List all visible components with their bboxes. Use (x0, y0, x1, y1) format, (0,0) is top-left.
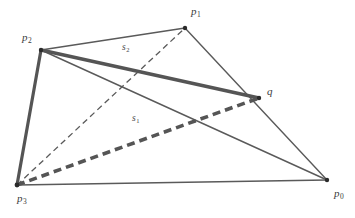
vertex-dot-p0 (325, 178, 329, 182)
geometric-diagram: p1 p2 p3 p0 q s2 s1 (0, 0, 355, 218)
vertex-label-p0: p0 (334, 188, 343, 199)
vertex-label-p2-text: p (22, 31, 28, 43)
segment-label-s1: s1 (132, 114, 139, 124)
vertex-label-p3-subscript: 3 (23, 197, 27, 206)
vertex-dot-p1 (183, 26, 187, 30)
vertex-dot-p3 (15, 183, 20, 188)
edge-p3-p0 (17, 180, 327, 185)
vertex-label-p0-text: p (334, 187, 340, 199)
vertex-dot-p2 (39, 48, 43, 52)
edge-p0-p1 (185, 28, 327, 180)
segment-label-s1-subscript: 1 (136, 117, 139, 124)
vertex-label-p2: p2 (22, 32, 31, 43)
vertex-label-p3-text: p (17, 192, 23, 204)
vertex-label-p1: p1 (191, 6, 200, 17)
vertex-label-p1-subscript: 1 (197, 10, 201, 19)
vertex-label-p3: p3 (17, 193, 26, 204)
segment-s2 (41, 50, 259, 98)
segment-label-s2-subscript: 2 (126, 46, 129, 53)
segment-label-s2: s2 (122, 43, 129, 53)
diagram-canvas (0, 0, 355, 218)
edge-p1-p2 (41, 28, 185, 50)
vertex-dot-q (257, 96, 261, 100)
vertex-label-p0-subscript: 0 (340, 192, 344, 201)
vertex-label-p1-text: p (191, 5, 197, 17)
edge-p2-p3 (17, 50, 41, 185)
vertex-label-q: q (267, 86, 273, 97)
segment-s1 (17, 98, 259, 185)
vertex-label-q-text: q (267, 85, 273, 97)
vertex-label-p2-subscript: 2 (28, 36, 32, 45)
